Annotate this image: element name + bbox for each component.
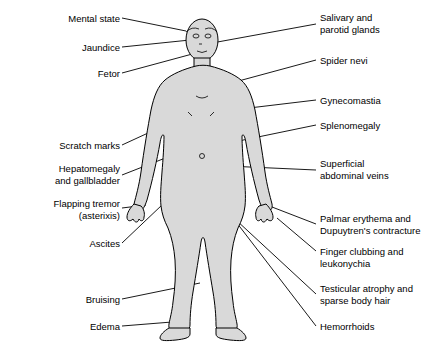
left-foot-shape <box>160 328 190 341</box>
label-splenomegaly: Splenomegaly <box>320 120 440 132</box>
label-finger-clubbing-leukonychia: Finger clubbing and leukonychia <box>320 246 440 269</box>
label-salivary-and-parotid-glands: Salivary and parotid glands <box>320 12 440 35</box>
leader-hemorrhoids <box>230 214 316 326</box>
label-ascites: Ascites <box>57 238 120 250</box>
right-foot-shape <box>216 328 246 341</box>
label-fetor: Fetor <box>62 68 120 80</box>
diagram-page: Mental state Jaundice Fetor Scratch mark… <box>0 0 443 346</box>
leader-jaundice <box>122 40 190 47</box>
human-body-figure <box>127 19 273 341</box>
label-gynecomastia: Gynecomastia <box>320 95 440 107</box>
head-shape <box>186 19 218 61</box>
label-flapping-tremor-asterixis: Flapping tremor (asterixis) <box>12 198 120 221</box>
label-scratch-marks: Scratch marks <box>22 140 120 152</box>
label-palmar-erythema-dupuytrens: Palmar erythema and Dupuytren's contract… <box>320 213 443 236</box>
leader-salivary-parotid <box>212 24 316 43</box>
label-edema: Edema <box>60 321 120 333</box>
leader-finger-clubbing <box>277 218 316 251</box>
label-spider-nevi: Spider nevi <box>320 55 440 67</box>
label-mental-state: Mental state <box>24 13 120 25</box>
leader-mental-state <box>122 18 186 31</box>
leader-edema <box>122 322 172 326</box>
label-hemorrhoids: Hemorrhoids <box>320 321 440 333</box>
label-bruising: Bruising <box>51 294 120 306</box>
label-superficial-abdominal-veins: Superficial abdominal veins <box>320 158 440 181</box>
label-testicular-atrophy-sparse-body-hair: Testicular atrophy and sparse body hair <box>320 283 442 306</box>
leader-palmar-erythema <box>272 207 316 224</box>
label-jaundice: Jaundice <box>43 42 120 54</box>
label-hepatomegaly-and-gallbladder: Hepatomegaly and gallbladder <box>14 163 120 186</box>
